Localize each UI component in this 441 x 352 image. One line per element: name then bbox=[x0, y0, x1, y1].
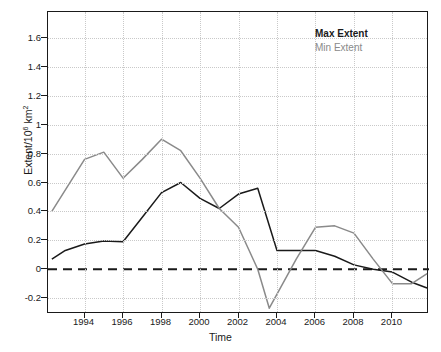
gridline-horizontal bbox=[48, 96, 427, 97]
gridline-vertical bbox=[354, 12, 355, 312]
y-axis-title-unit: km bbox=[22, 110, 34, 127]
gridline-vertical bbox=[162, 12, 163, 312]
y-tick-mark bbox=[41, 153, 47, 154]
gridline-horizontal bbox=[48, 183, 427, 184]
x-tick-mark bbox=[238, 313, 239, 318]
y-tick-label: 1.6 bbox=[28, 32, 41, 43]
y-tick-label: 0.8 bbox=[28, 147, 41, 158]
gridline-horizontal bbox=[48, 125, 427, 126]
y-tick-mark bbox=[41, 182, 47, 183]
gridline-vertical bbox=[277, 12, 278, 312]
y-tick-mark bbox=[41, 95, 47, 96]
y-axis-title-exponent: 6 bbox=[22, 127, 29, 131]
gridline-vertical bbox=[85, 12, 86, 312]
legend-item-max-extent: Max Extent bbox=[315, 27, 368, 41]
y-tick-mark bbox=[41, 297, 47, 298]
y-tick-label: -0.2 bbox=[25, 292, 41, 303]
y-tick-mark bbox=[41, 210, 47, 211]
x-tick-mark bbox=[353, 313, 354, 318]
gridline-horizontal bbox=[48, 240, 427, 241]
x-tick-mark bbox=[314, 313, 315, 318]
x-axis-title: Time bbox=[0, 331, 441, 343]
y-tick-mark bbox=[41, 239, 47, 240]
gridline-horizontal bbox=[48, 298, 427, 299]
y-tick-mark bbox=[41, 124, 47, 125]
x-tick-mark bbox=[276, 313, 277, 318]
y-tick-mark bbox=[41, 37, 47, 38]
gridline-vertical bbox=[315, 12, 316, 312]
x-tick-mark bbox=[391, 313, 392, 318]
gridline-vertical bbox=[123, 12, 124, 312]
x-tick-mark bbox=[84, 313, 85, 318]
y-tick-label: 0.4 bbox=[28, 205, 41, 216]
gridline-horizontal bbox=[48, 38, 427, 39]
gridline-vertical bbox=[392, 12, 393, 312]
x-tick-mark bbox=[199, 313, 200, 318]
y-tick-label: 0.2 bbox=[28, 234, 41, 245]
plot-area bbox=[47, 11, 428, 313]
y-tick-mark bbox=[41, 268, 47, 269]
y-tick-label: 1.4 bbox=[28, 60, 41, 71]
gridline-horizontal bbox=[48, 154, 427, 155]
y-axis-unit-exponent: 2 bbox=[22, 106, 29, 110]
gridline-vertical bbox=[200, 12, 201, 312]
gridline-vertical bbox=[239, 12, 240, 312]
x-tick-mark bbox=[122, 313, 123, 318]
gridline-horizontal bbox=[48, 67, 427, 68]
legend: Max Extent Min Extent bbox=[315, 27, 368, 55]
y-tick-label: 0.6 bbox=[28, 176, 41, 187]
y-axis-title: Extent/106 km2 bbox=[22, 60, 35, 220]
x-tick-mark bbox=[161, 313, 162, 318]
gridline-horizontal bbox=[48, 211, 427, 212]
y-tick-label: 1.2 bbox=[28, 89, 41, 100]
y-tick-mark bbox=[41, 66, 47, 67]
line-chart: Extent/106 km2 -0.200.20.40.60.811.21.41… bbox=[0, 0, 441, 352]
legend-item-min-extent: Min Extent bbox=[315, 41, 368, 55]
